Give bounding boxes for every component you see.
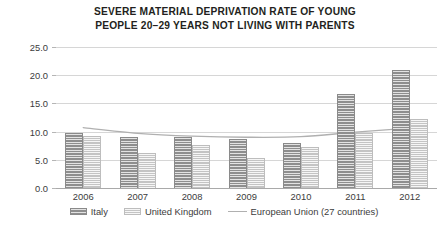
bar-group-2009 <box>229 47 265 188</box>
bar-united-kingdom-2007 <box>138 153 156 188</box>
x-tick-label-2012: 2012 <box>380 191 440 202</box>
bar-italy-2006 <box>65 133 83 188</box>
x-tick-label-2010: 2010 <box>271 191 331 202</box>
bar-italy-2010 <box>283 143 301 188</box>
y-tick-label: 20.0 <box>4 70 48 81</box>
bar-italy-2008 <box>174 137 192 188</box>
bar-italy-2012 <box>392 70 410 188</box>
y-tick-label: 5.0 <box>4 154 48 165</box>
bar-united-kingdom-2008 <box>192 145 210 188</box>
line-swatch <box>228 208 247 215</box>
chart-container: SEVERE MATERIAL DEPRIVATION RATE OF YOUN… <box>0 0 448 229</box>
bar-group-2006 <box>65 47 101 188</box>
bar-group-2007 <box>120 47 156 188</box>
y-tick-label: 15.0 <box>4 98 48 109</box>
x-tick-label-2007: 2007 <box>108 191 168 202</box>
plot-area <box>56 47 437 188</box>
chart-legend: ItalyUnited KingdomEuropean Union (27 co… <box>0 206 448 217</box>
gridline <box>56 188 437 189</box>
bar-light-swatch <box>124 208 141 215</box>
bar-italy-2009 <box>229 139 247 188</box>
legend-label: Italy <box>91 206 108 217</box>
y-tick-label: 0.0 <box>4 183 48 194</box>
bar-united-kingdom-2011 <box>355 133 373 188</box>
legend-label: European Union (27 countries) <box>251 206 379 217</box>
bar-dark-swatch <box>70 208 87 215</box>
bar-italy-2011 <box>337 94 355 188</box>
bar-united-kingdom-2012 <box>410 119 428 188</box>
bar-group-2011 <box>337 47 373 188</box>
x-tick-label-2011: 2011 <box>325 191 385 202</box>
bar-italy-2007 <box>120 137 138 188</box>
bar-group-2008 <box>174 47 210 188</box>
y-tick-label: 25.0 <box>4 42 48 53</box>
y-tick-label: 10.0 <box>4 126 48 137</box>
y-tick-mark <box>52 188 56 189</box>
x-tick-label-2008: 2008 <box>162 191 222 202</box>
x-tick-label-2006: 2006 <box>53 191 113 202</box>
bar-united-kingdom-2006 <box>83 136 101 188</box>
x-tick-label-2009: 2009 <box>217 191 277 202</box>
legend-label: United Kingdom <box>145 206 212 217</box>
bar-series-groups <box>56 47 437 188</box>
bar-united-kingdom-2010 <box>301 147 319 188</box>
legend-item-2[interactable]: European Union (27 countries) <box>228 206 379 217</box>
legend-item-1[interactable]: United Kingdom <box>124 206 212 217</box>
legend-item-0[interactable]: Italy <box>70 206 108 217</box>
bar-group-2010 <box>283 47 319 188</box>
bar-group-2012 <box>392 47 428 188</box>
bar-united-kingdom-2009 <box>247 158 265 188</box>
chart-title: SEVERE MATERIAL DEPRIVATION RATE OF YOUN… <box>60 5 390 32</box>
